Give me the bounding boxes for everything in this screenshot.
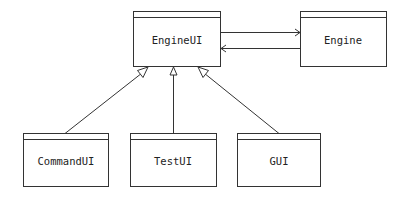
generalization-commandui [65, 67, 148, 134]
generalization-testui [170, 67, 177, 134]
class-testui-label: TestUI [154, 155, 192, 167]
class-testui[interactable]: TestUI [131, 134, 217, 187]
class-engineui[interactable]: EngineUI [134, 12, 221, 67]
class-engine-label: Engine [324, 34, 362, 46]
generalization-gui [198, 67, 279, 134]
class-commandui-label: CommandUI [38, 155, 95, 167]
association-engine-to-engineui [221, 45, 301, 52]
uml-diagram: EngineUI Engine CommandUI TestUI GUI [0, 0, 407, 200]
class-gui-label: GUI [270, 155, 289, 167]
hollow-triangle-icon [170, 67, 177, 75]
class-commandui[interactable]: CommandUI [24, 134, 109, 187]
class-engineui-label: EngineUI [152, 34, 203, 46]
class-gui[interactable]: GUI [238, 134, 321, 187]
association-engineui-to-engine [221, 29, 301, 36]
class-engine[interactable]: Engine [301, 12, 387, 67]
